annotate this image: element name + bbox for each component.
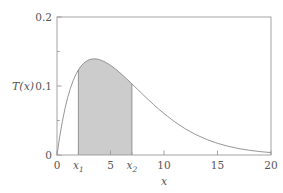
- x-tick-label-10: 10: [157, 160, 170, 171]
- plot-canvas: [0, 0, 283, 193]
- shaded-area-region: [78, 59, 131, 155]
- y-axis-title: T(x): [12, 81, 34, 92]
- x-tick-label-20: 20: [264, 160, 277, 171]
- x-tick-label-5: 5: [107, 160, 114, 171]
- x1-subscript: 1: [79, 165, 84, 174]
- x-tick-label-x1: x1: [73, 160, 84, 174]
- chart-figure: 0.2 0.1 0 T(x) 0 x1 5 x2 10 15 20 x: [0, 0, 283, 193]
- y-tick-label-0.2: 0.2: [35, 12, 52, 23]
- x-tick-label-x2: x2: [127, 160, 138, 174]
- x2-subscript: 2: [132, 165, 137, 174]
- y-tick-label-0.1: 0.1: [35, 81, 52, 92]
- x-tick-label-0: 0: [54, 160, 61, 171]
- y-tick-label-0: 0: [45, 150, 52, 161]
- x-axis-title: x: [161, 176, 167, 187]
- x-tick-label-15: 15: [211, 160, 224, 171]
